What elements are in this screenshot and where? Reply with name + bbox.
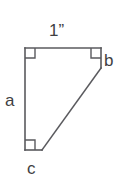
vertex-label-b: b — [104, 52, 113, 69]
side-label-top: 1” — [49, 22, 64, 39]
side-label-a: a — [5, 92, 14, 109]
vertex-label-c: c — [27, 160, 36, 177]
geometry-figure: 1” a b c — [0, 0, 128, 183]
right-angle-marker-top-right — [91, 48, 101, 58]
right-angle-marker-bottom-left — [25, 140, 35, 150]
edge-diagonal — [42, 68, 101, 150]
right-angle-marker-top-left — [25, 48, 35, 58]
